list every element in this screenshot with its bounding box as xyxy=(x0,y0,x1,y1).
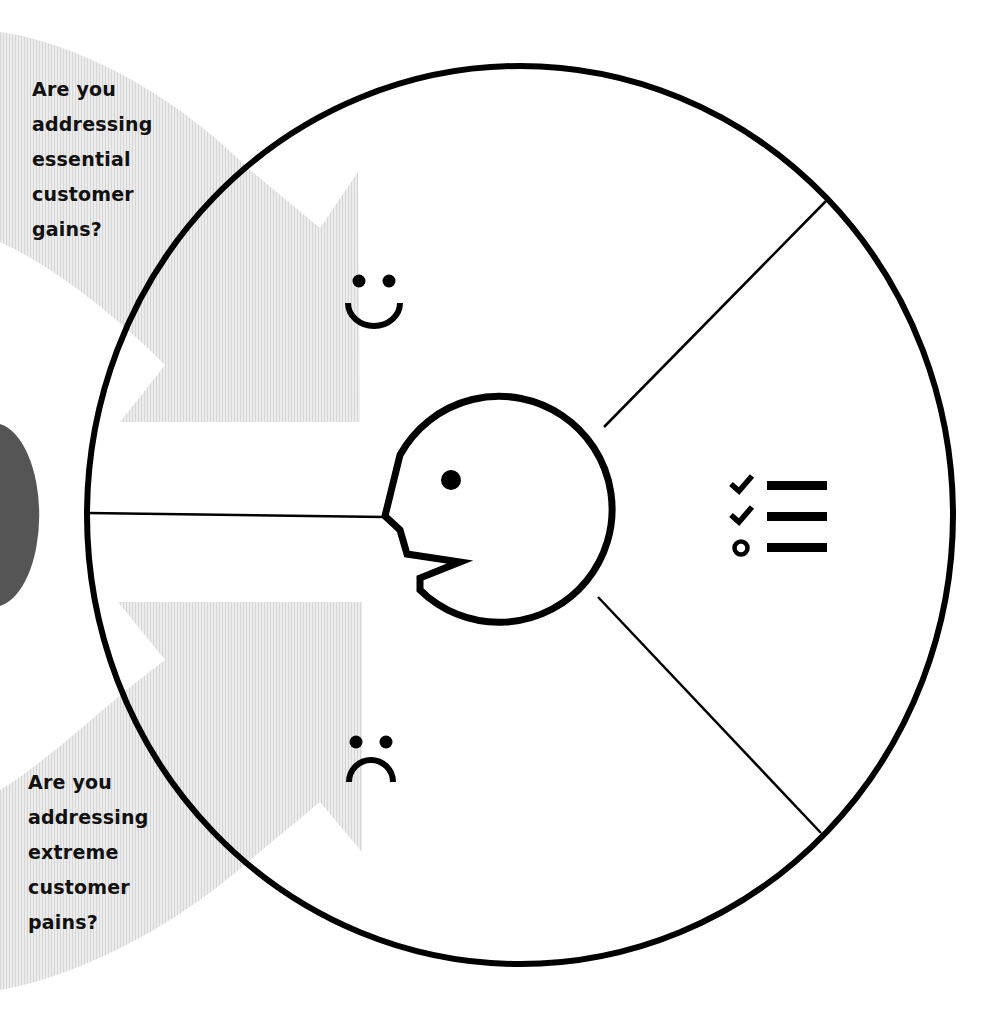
checklist-icon xyxy=(731,476,827,555)
pains-question-line: extreme xyxy=(28,835,149,870)
check-mark-icon xyxy=(731,476,752,491)
eye-icon xyxy=(441,470,461,490)
pains-question-line: customer xyxy=(28,870,149,905)
gains-question-line: gains? xyxy=(32,212,153,247)
divider-lower-right xyxy=(598,597,821,833)
divider-upper-right xyxy=(604,201,826,427)
gains-question-line: addressing xyxy=(32,107,153,142)
customer-head-profile-icon xyxy=(385,396,612,622)
gains-question-line: customer xyxy=(32,177,153,212)
unchecked-circle-icon xyxy=(735,542,748,555)
pains-question: Are you addressing extreme customer pain… xyxy=(28,765,149,940)
divider-left xyxy=(88,513,384,517)
pains-question-line: pains? xyxy=(28,905,149,940)
pains-question-line: Are you xyxy=(28,765,149,800)
gains-question: Are you addressing essential customer ga… xyxy=(32,72,153,247)
gains-question-line: essential xyxy=(32,142,153,177)
check-mark-icon xyxy=(731,507,752,522)
gains-question-line: Are you xyxy=(32,72,153,107)
dark-semicircle xyxy=(0,424,39,606)
pains-question-line: addressing xyxy=(28,800,149,835)
